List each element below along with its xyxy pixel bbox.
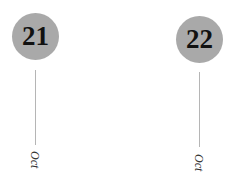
day-badge: 21 [12,13,59,60]
month-label: Oct [191,154,206,171]
timeline-stem [199,72,200,147]
month-label: Oct [27,151,42,168]
timeline-stem [35,70,36,145]
day-badge: 22 [176,16,223,63]
